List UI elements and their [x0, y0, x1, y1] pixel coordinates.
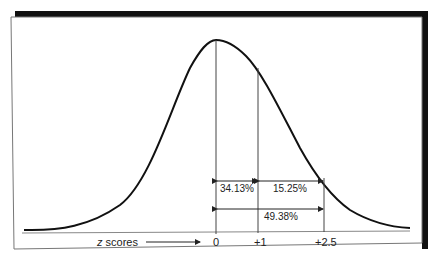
normal-curve-diagram	[0, 0, 437, 275]
tick-label-1: +1	[254, 236, 267, 248]
tick-label-2-5: +2.5	[315, 236, 337, 248]
frame-shadow-top	[15, 11, 428, 17]
tick-label-0: 0	[213, 236, 219, 248]
interval-label-0-2-5: 49.38%	[264, 211, 298, 222]
axis-label-text: scores	[106, 236, 138, 248]
frame-shadow-right	[422, 11, 428, 249]
axis-label-var: z	[97, 236, 103, 248]
axis-label: z scores	[97, 236, 138, 248]
interval-label-0-1: 34.13%	[220, 183, 254, 194]
interval-label-1-2-5: 15.25%	[273, 183, 307, 194]
